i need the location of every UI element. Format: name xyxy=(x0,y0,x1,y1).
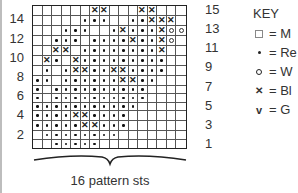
cross-icon: ✕ xyxy=(158,46,166,55)
dot-icon xyxy=(46,124,49,127)
chart-cell xyxy=(138,66,148,76)
chart-cell xyxy=(100,94,110,102)
v-mark-icon: v xyxy=(253,104,265,116)
chart-cell xyxy=(176,16,186,26)
dot-icon xyxy=(93,59,96,62)
chart-cell xyxy=(62,86,72,94)
chart-cell xyxy=(129,111,139,121)
row-number-label: 10 xyxy=(6,50,24,65)
chart-cell: ✕ xyxy=(43,56,53,66)
dot-icon xyxy=(103,49,106,52)
chart-cell xyxy=(81,26,91,36)
stitch-grid: ✕✕✕✕✕✕✕✕✕✕✕✕✕✕✕✕✕✕✕✕✕✕✕✕✕✕ xyxy=(32,5,187,149)
chart-cell: ✕ xyxy=(71,66,81,76)
chart-cell xyxy=(71,16,81,26)
chart-cell xyxy=(90,26,100,36)
chart-cell xyxy=(71,94,81,102)
chart-cell: ✕ xyxy=(167,16,177,26)
dot-icon xyxy=(46,69,49,72)
dot-icon xyxy=(103,59,106,62)
dot-icon xyxy=(253,51,265,54)
dot-icon xyxy=(141,97,144,100)
chart-cell xyxy=(176,121,186,131)
dot-icon xyxy=(113,49,116,52)
chart-cell xyxy=(157,111,167,121)
dot-icon xyxy=(84,105,87,108)
row-number-label: 8 xyxy=(6,69,24,84)
dot-icon xyxy=(103,39,106,42)
dot-icon xyxy=(103,124,106,127)
dot-icon xyxy=(132,88,135,91)
chart-cell xyxy=(148,66,158,76)
chart-cell xyxy=(62,131,72,139)
dot-icon xyxy=(84,88,87,91)
dot-icon xyxy=(122,39,125,42)
chart-cell xyxy=(110,111,120,121)
dot-icon xyxy=(74,143,77,146)
chart-cell xyxy=(129,46,139,56)
chart-cell xyxy=(176,46,186,56)
chart-cell xyxy=(167,121,177,131)
dot-icon xyxy=(46,134,49,137)
chart-cell xyxy=(62,140,72,148)
chart-cell xyxy=(100,56,110,66)
chart-cell xyxy=(62,26,72,36)
circle-icon xyxy=(253,69,265,75)
row-number-label: 7 xyxy=(205,79,212,94)
cross-icon: ✕ xyxy=(158,36,166,45)
chart-cell xyxy=(176,66,186,76)
dot-icon xyxy=(36,79,39,82)
chart-cell xyxy=(157,140,167,148)
chart-cell xyxy=(90,86,100,94)
chart-cell xyxy=(138,131,148,139)
dot-icon xyxy=(132,19,135,22)
chart-cell xyxy=(138,46,148,56)
dot-icon xyxy=(65,143,68,146)
chart-cell xyxy=(81,140,91,148)
chart-cell xyxy=(100,76,110,86)
chart-cell: ✕ xyxy=(71,111,81,121)
chart-cell: ✕ xyxy=(90,6,100,16)
chart-cell xyxy=(33,103,43,111)
chart-cell xyxy=(43,86,53,94)
chart-cell xyxy=(148,86,158,94)
dot-icon xyxy=(74,97,77,100)
chart-cell xyxy=(100,46,110,56)
dot-icon xyxy=(113,124,116,127)
chart-cell xyxy=(43,36,53,46)
dot-icon xyxy=(55,134,58,137)
dot-icon xyxy=(93,134,96,137)
chart-cell xyxy=(110,36,120,46)
dot-icon xyxy=(93,88,96,91)
row-number-label: 2 xyxy=(6,127,24,142)
chart-cell xyxy=(176,131,186,139)
chart-cell xyxy=(167,111,177,121)
circle-icon xyxy=(179,28,184,33)
dot-icon xyxy=(122,97,125,100)
dot-icon xyxy=(122,88,125,91)
circle-icon xyxy=(169,38,174,43)
chart-cell xyxy=(100,36,110,46)
dot-icon xyxy=(93,114,96,117)
chart-cell xyxy=(138,111,148,121)
chart-cell xyxy=(138,103,148,111)
key-item-dot: = Re xyxy=(253,43,297,62)
dot-icon xyxy=(55,39,58,42)
dot-icon xyxy=(93,19,96,22)
dot-icon xyxy=(93,49,96,52)
dot-icon xyxy=(84,59,87,62)
chart-cell xyxy=(167,86,177,94)
chart-cell xyxy=(119,6,129,16)
dot-icon xyxy=(84,29,87,32)
chart-cell xyxy=(148,140,158,148)
chart-cell xyxy=(157,131,167,139)
chart-cell xyxy=(129,6,139,16)
chart-cell xyxy=(33,46,43,56)
cross-icon: ✕ xyxy=(129,76,137,85)
chart-cell xyxy=(110,140,120,148)
chart-cell xyxy=(43,16,53,26)
chart-cell xyxy=(43,121,53,131)
chart-cell xyxy=(81,76,91,86)
chart-cell xyxy=(90,36,100,46)
dot-icon xyxy=(122,124,125,127)
